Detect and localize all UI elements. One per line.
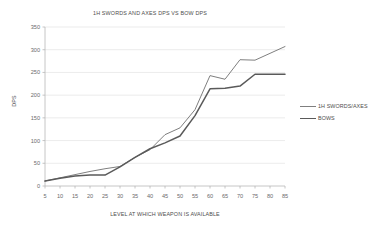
x-tick-label: 65	[218, 193, 232, 199]
legend-item-label: BOWS	[318, 115, 335, 121]
x-tick-label: 35	[128, 193, 142, 199]
y-tick-label: 50	[14, 160, 40, 166]
x-tick-label: 75	[248, 193, 262, 199]
y-tick-label: 250	[14, 69, 40, 75]
y-tick-label: 300	[14, 47, 40, 53]
y-tick-label: 350	[14, 24, 40, 30]
series-line	[45, 47, 285, 181]
x-tick-label: 70	[233, 193, 247, 199]
x-tick-label: 40	[143, 193, 157, 199]
x-tick-label: 30	[113, 193, 127, 199]
x-tick-label: 50	[173, 193, 187, 199]
y-tick-label: 150	[14, 115, 40, 121]
legend-item-label: 1H SWORDS/AXES	[318, 103, 368, 109]
x-tick-label: 60	[203, 193, 217, 199]
x-tick-label: 85	[278, 193, 292, 199]
axis-lines-group	[43, 27, 286, 186]
series-line	[45, 74, 285, 181]
y-tick-label: 200	[14, 92, 40, 98]
legend-line-swatch	[300, 106, 316, 107]
x-tick-label: 25	[98, 193, 112, 199]
x-tick-label: 15	[68, 193, 82, 199]
x-tick-label: 80	[263, 193, 277, 199]
legend-item[interactable]: 1H SWORDS/AXES	[300, 100, 388, 112]
y-tick-label: 0	[14, 183, 40, 189]
y-axis-title: DPS	[11, 91, 17, 111]
chart-legend: 1H SWORDS/AXESBOWS	[300, 100, 388, 124]
series-lines-group	[45, 47, 285, 181]
x-axis-title: LEVEL AT WHICH WEAPON IS AVAILABLE	[45, 211, 285, 217]
x-tick-label: 45	[158, 193, 172, 199]
y-tick-label: 100	[14, 138, 40, 144]
chart-container: 1H SWORDS AND AXES DPS VS BOW DPS 050100…	[0, 0, 389, 228]
x-tick-label: 20	[83, 193, 97, 199]
x-tick-label: 10	[53, 193, 67, 199]
x-tick-label: 55	[188, 193, 202, 199]
legend-item[interactable]: BOWS	[300, 112, 388, 124]
legend-line-swatch	[300, 118, 316, 119]
x-tick-label: 5	[38, 193, 52, 199]
